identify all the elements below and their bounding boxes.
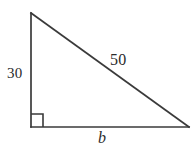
right-angle-marker-icon — [31, 114, 43, 127]
triangle-drawing — [0, 0, 196, 149]
vertical-leg-label: 30 — [7, 66, 22, 81]
horizontal-leg-label: b — [98, 130, 106, 146]
hypotenuse-line — [31, 13, 189, 127]
hypotenuse-label: 50 — [110, 52, 126, 68]
triangle-figure: 30 50 b — [0, 0, 196, 149]
